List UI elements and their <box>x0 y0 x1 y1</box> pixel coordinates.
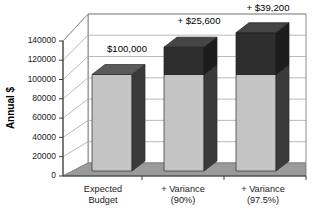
y-tick-label-140000: 140000 <box>28 35 57 45</box>
bar-2-base-side[interactable] <box>204 65 217 172</box>
data-label-variance-975: + $39,200 <box>247 2 290 13</box>
bar-group-variance-975[interactable] <box>236 23 289 171</box>
y-axis <box>59 41 63 176</box>
bar-3-base-front[interactable] <box>236 75 276 172</box>
bar-2-base-front[interactable] <box>164 75 204 172</box>
category-label-2-line1: + Variance <box>161 184 205 194</box>
y-axis-title: Annual $ <box>5 86 16 129</box>
bar-1-base-front[interactable] <box>92 75 132 172</box>
x-axis-category-labels: Expected Budget + Variance (90%) + Varia… <box>84 184 285 205</box>
y-axis-title-group: Annual $ <box>5 86 16 129</box>
y-tick-label-60000: 60000 <box>32 112 56 122</box>
y-tick-label-80000: 80000 <box>32 93 56 103</box>
data-label-expected-budget: $100,000 <box>107 43 147 54</box>
chart-canvas: 0 20000 40000 60000 80000 100000 120000 … <box>0 0 318 218</box>
y-tick-label-100000: 100000 <box>28 74 57 84</box>
data-label-variance-90: + $25,600 <box>178 15 221 26</box>
plot-left-wall <box>63 14 88 176</box>
bar-3-base-side[interactable] <box>276 65 289 172</box>
category-label-3-line1: + Variance <box>241 184 285 194</box>
bar-group-variance-90[interactable] <box>164 37 217 171</box>
bar-2-variance-front[interactable] <box>164 47 204 74</box>
category-label-1-line1: Expected <box>84 184 122 194</box>
y-axis-tick-labels: 0 20000 40000 60000 80000 100000 120000 … <box>28 35 57 180</box>
bar-chart: 0 20000 40000 60000 80000 100000 120000 … <box>0 0 318 218</box>
y-tick-label-20000: 20000 <box>32 151 56 161</box>
category-label-2-line2: (90%) <box>171 195 196 205</box>
x-axis <box>63 176 306 180</box>
bar-3-variance-front[interactable] <box>236 33 276 75</box>
category-label-3-line2: (97.5%) <box>247 195 279 205</box>
y-tick-label-0: 0 <box>51 170 56 180</box>
y-tick-label-120000: 120000 <box>28 54 57 64</box>
y-tick-label-40000: 40000 <box>32 132 56 142</box>
bar-1-base-side[interactable] <box>132 65 145 172</box>
category-label-1-line2: Budget <box>88 195 118 205</box>
bar-group-expected-budget[interactable] <box>92 65 145 172</box>
